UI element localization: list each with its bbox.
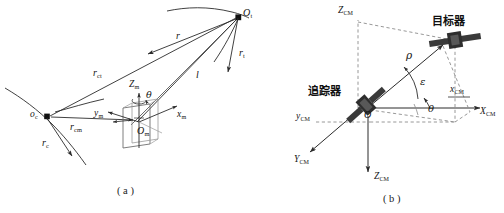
caption-panel-a: ( a ) (117, 186, 134, 197)
caption-panel-b: ( b ) (383, 194, 401, 205)
label-target-craft: 目标器 (432, 16, 465, 27)
target-body-highlight (450, 34, 459, 45)
node-marker-ot (235, 14, 241, 20)
label-y-cm-outer: YCM (294, 155, 309, 165)
label-r-cm: rcm (70, 122, 82, 132)
label-y-cm-lower: yCM (296, 112, 310, 122)
label-x-m: xm (177, 110, 186, 120)
label-om: Om (137, 126, 149, 136)
label-z-cm-up: ZCM (338, 6, 353, 16)
label-r-relative: r (176, 31, 180, 41)
label-r-ct: rct (93, 68, 102, 78)
label-theta-a: θ (146, 90, 152, 100)
label-y-m: ym (94, 109, 103, 119)
label-x-cm-lower: xCM (450, 85, 464, 95)
label-ot: Ot (243, 8, 252, 18)
label-r-c: rc (42, 138, 49, 148)
label-l: l (196, 70, 199, 80)
label-origin-o: O (364, 110, 371, 120)
label-z-m: Zm (129, 80, 139, 90)
label-r-t: rt (239, 48, 245, 58)
label-oc: oc (30, 110, 37, 120)
label-chaser-craft: 追踪器 (308, 86, 341, 97)
label-epsilon: ε (420, 77, 425, 87)
label-z-cm-down: ZCM (374, 172, 389, 182)
label-x-cm-upper: XCM (480, 107, 495, 117)
label-rho: ρ (406, 50, 412, 61)
label-theta-b: θ (428, 104, 434, 114)
